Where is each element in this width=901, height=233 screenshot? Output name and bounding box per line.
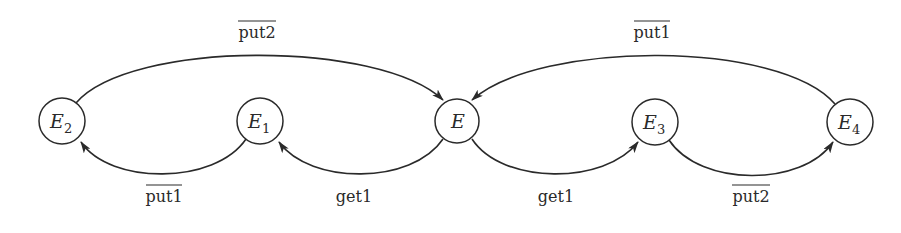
node-e2: E2: [39, 98, 85, 144]
label-get1-right: get1: [538, 187, 574, 206]
label-put2-top: put2: [238, 21, 276, 42]
node-e3: E3: [632, 99, 678, 145]
edge-e3-to-e4: [669, 140, 833, 176]
edge-e1-to-e2: [81, 139, 246, 174]
svg-text:put1: put1: [633, 23, 670, 42]
label-get1-left: get1: [336, 187, 372, 206]
label-put2-bottom: put2: [732, 185, 770, 206]
svg-text:put1: put1: [145, 187, 182, 206]
edge-e4-to-e: [472, 55, 835, 104]
svg-text:get1: get1: [336, 187, 372, 206]
svg-text:put2: put2: [238, 23, 275, 42]
node-e4: E4: [827, 99, 873, 145]
svg-text:get1: get1: [538, 187, 574, 206]
node-e: E: [435, 99, 479, 143]
state-diagram: E2 E1 E E3 E4 put2 put1 put1 get1 get1 p…: [0, 0, 901, 233]
label-put1-bottom: put1: [145, 185, 182, 206]
edge-e-to-e3: [472, 139, 638, 174]
edge-e-to-e1: [279, 139, 443, 174]
svg-text:E: E: [450, 110, 465, 132]
svg-text:put2: put2: [732, 187, 769, 206]
label-put1-top: put1: [633, 21, 670, 42]
edge-e2-to-e: [76, 55, 443, 103]
node-e1: E1: [237, 98, 283, 144]
